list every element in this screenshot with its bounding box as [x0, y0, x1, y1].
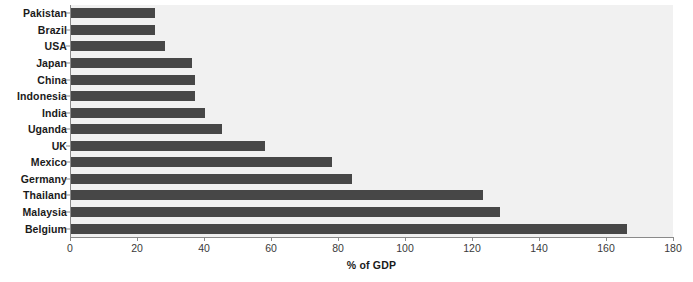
bar-row: Pakistan	[0, 5, 693, 22]
bar-row: China	[0, 71, 693, 88]
x-tick-label: 40	[198, 242, 210, 254]
x-axis-title: % of GDP	[70, 259, 673, 271]
x-tick-label: 140	[530, 242, 548, 254]
bar	[71, 25, 155, 35]
bar-row: Japan	[0, 55, 693, 72]
category-label: Germany	[21, 173, 67, 185]
x-axis-ticks: 020406080100120140160180	[0, 237, 693, 261]
bar	[71, 174, 352, 184]
x-tick-label: 0	[67, 242, 73, 254]
x-tick-mark	[673, 237, 674, 241]
bar-row: Mexico	[0, 154, 693, 171]
x-tick-label: 160	[597, 242, 615, 254]
bar	[71, 91, 195, 101]
bar	[71, 58, 192, 68]
x-tick-label: 20	[131, 242, 143, 254]
category-label: Uganda	[28, 123, 67, 135]
bar-row: UK	[0, 138, 693, 155]
bar-row: India	[0, 104, 693, 121]
category-label: Japan	[36, 57, 67, 69]
bar	[71, 41, 165, 51]
x-tick-mark	[606, 237, 607, 241]
bar	[71, 8, 155, 18]
category-label: UK	[52, 140, 67, 152]
bar-row: Malaysia	[0, 204, 693, 221]
bar	[71, 141, 265, 151]
category-label: Mexico	[31, 156, 67, 168]
bar-row: Germany	[0, 171, 693, 188]
bar	[71, 224, 627, 234]
x-tick-label: 60	[265, 242, 277, 254]
bar	[71, 108, 205, 118]
x-tick-mark	[271, 237, 272, 241]
bar-row: USA	[0, 38, 693, 55]
category-label: China	[37, 74, 67, 86]
x-tick-mark	[472, 237, 473, 241]
bar	[71, 190, 483, 200]
bar	[71, 207, 500, 217]
category-label: USA	[45, 40, 67, 52]
bar-chart: PakistanBrazilUSAJapanChinaIndonesiaIndi…	[0, 0, 693, 282]
x-tick-mark	[539, 237, 540, 241]
x-tick-mark	[137, 237, 138, 241]
bar-row: Belgium	[0, 220, 693, 237]
category-label: Indonesia	[17, 90, 67, 102]
category-label: India	[42, 107, 67, 119]
bar	[71, 157, 332, 167]
x-tick-label: 180	[664, 242, 682, 254]
x-tick-mark	[204, 237, 205, 241]
x-tick-mark	[405, 237, 406, 241]
category-label: Belgium	[25, 223, 67, 235]
bar-row: Indonesia	[0, 88, 693, 105]
bar	[71, 75, 195, 85]
bar-row: Thailand	[0, 187, 693, 204]
x-tick-mark	[70, 237, 71, 241]
bar-rows: PakistanBrazilUSAJapanChinaIndonesiaIndi…	[0, 5, 693, 237]
x-tick-mark	[338, 237, 339, 241]
bar-row: Uganda	[0, 121, 693, 138]
category-label: Malaysia	[22, 206, 67, 218]
category-label: Pakistan	[23, 7, 67, 19]
x-tick-label: 80	[332, 242, 344, 254]
bar	[71, 124, 222, 134]
x-tick-label: 100	[396, 242, 414, 254]
category-label: Thailand	[23, 189, 67, 201]
x-tick-label: 120	[463, 242, 481, 254]
category-label: Brazil	[38, 24, 67, 36]
bar-row: Brazil	[0, 22, 693, 39]
